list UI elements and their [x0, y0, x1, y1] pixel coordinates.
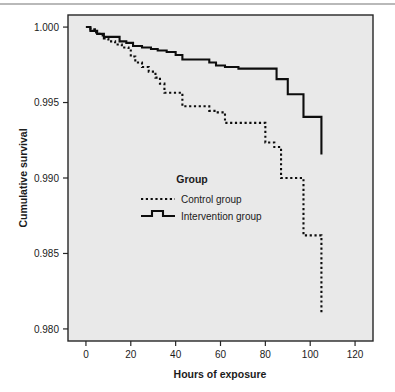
legend-label-intervention: Intervention group [181, 211, 262, 222]
y-tick-label: 0.980 [34, 324, 59, 335]
plot-panel-background [68, 15, 373, 341]
legend-title: Group [176, 173, 208, 185]
x-tick-label: 80 [260, 349, 272, 360]
y-tick-label: 0.990 [34, 173, 59, 184]
survival-chart: 1.0000.9950.9900.9850.980 02040608010012… [0, 0, 395, 392]
x-tick-label: 0 [83, 349, 89, 360]
y-tick-label: 0.995 [34, 97, 59, 108]
y-tick-label: 1.000 [34, 22, 59, 33]
x-tick-label: 40 [170, 349, 182, 360]
y-axis-title: Cumulative survival [17, 128, 29, 227]
x-tick-label: 20 [125, 349, 137, 360]
x-tick-label: 100 [302, 349, 319, 360]
figure-container: 1.0000.9950.9900.9850.980 02040608010012… [0, 0, 395, 392]
x-tick-label: 60 [215, 349, 227, 360]
legend-label-control: Control group [181, 194, 242, 205]
x-axis-title: Hours of exposure [174, 368, 267, 380]
y-tick-label: 0.985 [34, 248, 59, 259]
y-axis-ticks: 1.0000.9950.9900.9850.980 [34, 22, 68, 335]
x-tick-label: 120 [347, 349, 364, 360]
x-axis-ticks: 020406080100120 [83, 341, 364, 360]
